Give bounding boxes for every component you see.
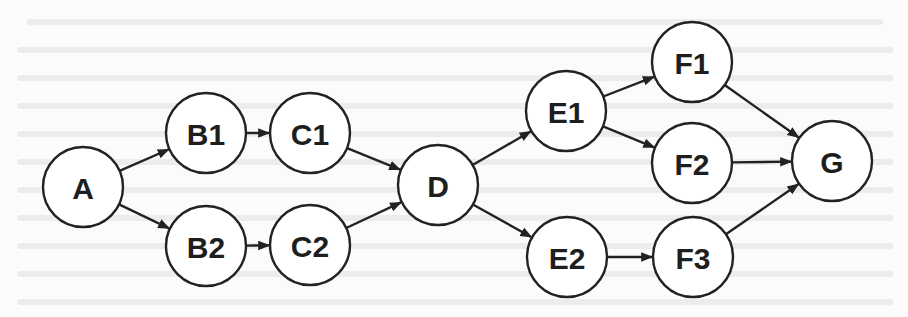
graph-svg: AB1B2C1C2DE1E2F1F2F3G xyxy=(0,0,908,317)
node-a: A xyxy=(43,147,123,227)
edge-c1-to-d xyxy=(347,148,400,170)
node-f2: F2 xyxy=(652,123,732,203)
node-label: C1 xyxy=(291,118,329,151)
node-g: G xyxy=(792,121,872,201)
node-b2: B2 xyxy=(166,206,246,286)
diagram-canvas: AB1B2C1C2DE1E2F1F2F3G xyxy=(0,0,908,317)
node-e2: E2 xyxy=(527,217,607,297)
node-c2: C2 xyxy=(270,205,350,285)
node-d: D xyxy=(398,145,478,225)
node-f3: F3 xyxy=(653,217,733,297)
node-label: B1 xyxy=(187,118,225,151)
node-c1: C1 xyxy=(270,93,350,173)
node-label: F3 xyxy=(675,242,710,275)
node-f1: F1 xyxy=(652,22,732,102)
node-label: D xyxy=(427,170,449,203)
node-label: C2 xyxy=(291,230,329,263)
node-e1: E1 xyxy=(526,71,606,151)
edge-f2-to-g xyxy=(732,162,791,163)
node-label: E1 xyxy=(548,96,585,129)
node-label: F2 xyxy=(674,148,709,181)
node-label: A xyxy=(72,172,94,205)
edge-f1-to-g xyxy=(725,85,799,137)
node-label: E2 xyxy=(549,242,586,275)
node-label: B2 xyxy=(187,231,225,264)
node-label: G xyxy=(820,146,843,179)
node-label: F1 xyxy=(674,47,709,80)
node-b1: B1 xyxy=(166,93,246,173)
